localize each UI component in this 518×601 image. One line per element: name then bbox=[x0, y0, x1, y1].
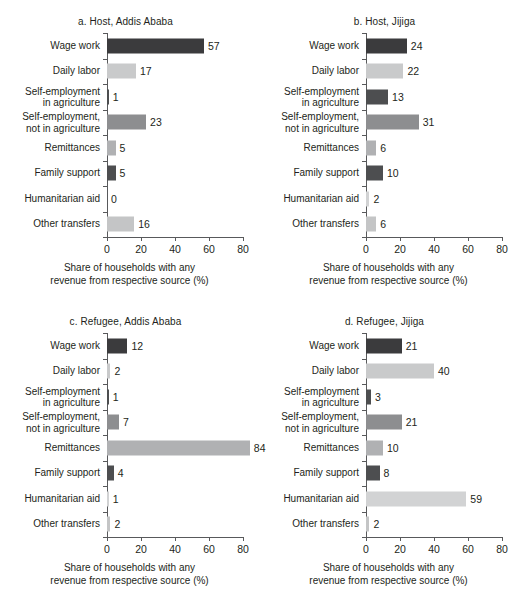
panel-c-ytick-1 bbox=[103, 359, 107, 360]
panel-a-axis-title: Share of households with any revenue fro… bbox=[4, 262, 255, 287]
bar-row: Daily labor22 bbox=[366, 59, 502, 85]
category-label: Daily labor bbox=[263, 66, 359, 78]
bar-row: Wage work57 bbox=[107, 33, 243, 59]
category-label: Self-employmentin agriculture bbox=[4, 85, 100, 108]
bar bbox=[366, 140, 376, 155]
category-label: Self-employment,not in agriculture bbox=[263, 411, 359, 434]
category-label: Remittances bbox=[4, 142, 100, 154]
bar bbox=[107, 440, 250, 455]
panel-c-xticklabel-20: 20 bbox=[135, 543, 147, 555]
panel-d-title: d. Refugee, Jijiga bbox=[259, 316, 510, 327]
bar bbox=[366, 64, 403, 79]
panel-a-ytick-3 bbox=[103, 110, 107, 111]
panel-a-xticklabel-0: 0 bbox=[104, 243, 110, 255]
panel-b-ytick-6 bbox=[362, 186, 366, 187]
bar-value-label: 16 bbox=[138, 218, 150, 230]
panel-c-bars: Wage work12Daily labor2Self-employmentin… bbox=[107, 333, 243, 537]
panel-a-xticklabel-80: 80 bbox=[237, 243, 249, 255]
panel-a-ytick-1 bbox=[103, 59, 107, 60]
panel-d-xticklabel-60: 60 bbox=[462, 543, 474, 555]
bar-row: Humanitarian aid2 bbox=[366, 186, 502, 212]
bar-row: Self-employment,not in agriculture31 bbox=[366, 110, 502, 136]
bar-value-label: 2 bbox=[373, 193, 379, 205]
category-label: Family support bbox=[4, 468, 100, 480]
bar bbox=[366, 166, 383, 181]
bar-value-label: 2 bbox=[114, 365, 120, 377]
bar bbox=[366, 415, 402, 430]
panel-b-ytick-8 bbox=[362, 237, 366, 238]
panel-a-ytick-7 bbox=[103, 212, 107, 213]
bar-value-label: 2 bbox=[373, 518, 379, 530]
panel-c-xtick-20 bbox=[141, 537, 142, 541]
bar bbox=[107, 89, 109, 104]
panel-a-ytick-2 bbox=[103, 84, 107, 85]
panel-d-ytick-0 bbox=[362, 333, 366, 334]
bar-row: Self-employmentin agriculture13 bbox=[366, 84, 502, 110]
bar bbox=[366, 217, 376, 232]
panel-b-bars: Wage work24Daily labor22Self-employmenti… bbox=[366, 33, 502, 237]
panel-b-ytick-7 bbox=[362, 212, 366, 213]
panel-c-xticklabel-80: 80 bbox=[237, 543, 249, 555]
panel-c-plot: Wage work12Daily labor2Self-employmentin… bbox=[107, 333, 243, 537]
panel-d-xtick-0 bbox=[366, 537, 367, 541]
bar-row: Other transfers16 bbox=[107, 212, 243, 238]
bar bbox=[107, 338, 127, 353]
bar bbox=[107, 140, 116, 155]
bar bbox=[366, 89, 388, 104]
panel-b-ytick-5 bbox=[362, 161, 366, 162]
panel-b-xticklabel-40: 40 bbox=[428, 243, 440, 255]
category-label: Wage work bbox=[263, 40, 359, 52]
panel-b: b. Host, Jijiga Wage work24Daily labor22… bbox=[259, 0, 518, 300]
bar bbox=[366, 364, 434, 379]
panel-d: d. Refugee, Jijiga Wage work21Daily labo… bbox=[259, 300, 518, 601]
panel-b-ytick-4 bbox=[362, 135, 366, 136]
panel-a-xtick-60 bbox=[209, 237, 210, 241]
panel-d-ytick-5 bbox=[362, 461, 366, 462]
panel-a-bars: Wage work57Daily labor17Self-employmenti… bbox=[107, 33, 243, 237]
panel-a-ytick-5 bbox=[103, 161, 107, 162]
bar-value-label: 1 bbox=[113, 493, 119, 505]
bar-value-label: 3 bbox=[375, 391, 381, 403]
bar-row: Humanitarian aid0 bbox=[107, 186, 243, 212]
bar-value-label: 59 bbox=[470, 493, 482, 505]
category-label: Family support bbox=[263, 468, 359, 480]
bar-row: Humanitarian aid59 bbox=[366, 486, 502, 512]
panel-b-xticklabel-80: 80 bbox=[496, 243, 508, 255]
panel-d-ytick-7 bbox=[362, 512, 366, 513]
panel-a-title: a. Host, Addis Ababa bbox=[0, 16, 251, 27]
bar-value-label: 23 bbox=[150, 116, 162, 128]
bar bbox=[366, 466, 380, 481]
panel-b-ytick-3 bbox=[362, 110, 366, 111]
bar-value-label: 21 bbox=[406, 340, 418, 352]
category-label: Other transfers bbox=[4, 219, 100, 231]
category-label: Family support bbox=[263, 168, 359, 180]
category-label: Humanitarian aid bbox=[4, 193, 100, 205]
bar-row: Other transfers2 bbox=[366, 512, 502, 538]
category-label: Other transfers bbox=[4, 519, 100, 531]
panel-c-axis-title-line1: Share of households with any bbox=[64, 562, 195, 573]
bar bbox=[366, 517, 369, 532]
bar-value-label: 22 bbox=[407, 65, 419, 77]
panel-a-xtick-80 bbox=[243, 237, 244, 241]
panel-c-axis-title: Share of households with any revenue fro… bbox=[4, 562, 255, 587]
bar-row: Remittances10 bbox=[366, 435, 502, 461]
bar-value-label: 13 bbox=[392, 91, 404, 103]
bar-value-label: 31 bbox=[423, 116, 435, 128]
bar-row: Remittances5 bbox=[107, 135, 243, 161]
category-label: Wage work bbox=[4, 40, 100, 52]
panel-d-ytick-4 bbox=[362, 435, 366, 436]
panel-c-xticklabel-60: 60 bbox=[203, 543, 215, 555]
bar-row: Other transfers6 bbox=[366, 212, 502, 238]
panel-b-xticklabel-60: 60 bbox=[462, 243, 474, 255]
bar-row: Wage work21 bbox=[366, 333, 502, 359]
bar-row: Family support10 bbox=[366, 161, 502, 187]
bar-value-label: 5 bbox=[120, 142, 126, 154]
category-label: Self-employment,not in agriculture bbox=[4, 111, 100, 134]
bar bbox=[107, 415, 119, 430]
panel-c-ytick-5 bbox=[103, 461, 107, 462]
panel-b-axis-title-line1: Share of households with any bbox=[323, 262, 454, 273]
bar-value-label: 6 bbox=[380, 218, 386, 230]
panel-a-axis-title-line2: revenue from respective source (%) bbox=[50, 275, 208, 286]
panel-c-ytick-8 bbox=[103, 537, 107, 538]
category-label: Daily labor bbox=[263, 366, 359, 378]
